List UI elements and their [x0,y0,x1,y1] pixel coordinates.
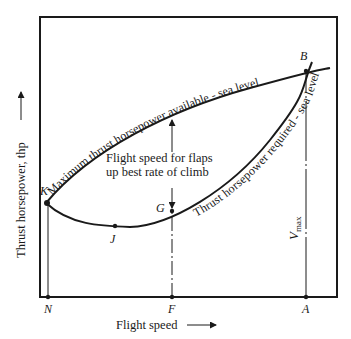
thrust-horsepower-diagram: Maximum thrust horsepower available - se… [0,0,351,339]
label-A: A [301,302,310,316]
vmax-subscript: max [293,216,303,232]
point-G [170,209,174,213]
available-curve-label: Maximum thrust horsepower available - se… [44,75,261,198]
point-A [304,295,308,299]
annotation-line-1: Flight speed for flaps [106,151,213,165]
available-curve-label-path: Maximum thrust horsepower available - se… [44,75,261,198]
x-axis-label: Flight speed [116,318,178,332]
y-axis-label: Thrust horsepower, thp [14,142,28,258]
point-B [304,69,308,73]
label-N: N [43,302,53,316]
point-J [113,224,117,228]
y-axis-label-group: Thrust horsepower, thp [14,142,28,258]
point-F [170,295,174,299]
svg-text:Vmax: Vmax [286,216,303,240]
label-G: G [156,201,165,215]
point-K [44,200,50,206]
label-J: J [110,232,116,246]
annotation-line-2: up best rate of climb [106,165,209,179]
point-N [46,295,50,299]
vmax-label: Vmax [286,216,303,240]
label-F: F [167,302,176,316]
label-K: K [39,184,49,198]
label-B: B [300,49,308,63]
